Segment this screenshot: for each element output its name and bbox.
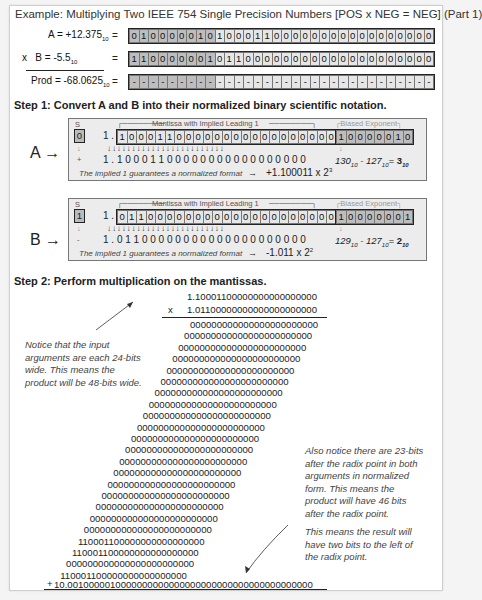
note-radix-bits: Also notice there are 23-bitsafter the r…	[305, 445, 423, 520]
note-result-bits: This means the result willhave two bits …	[305, 526, 413, 564]
